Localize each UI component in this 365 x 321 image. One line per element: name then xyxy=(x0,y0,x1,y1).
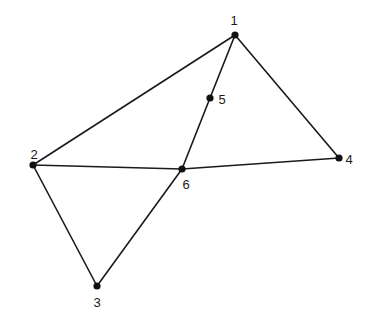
node-3 xyxy=(93,282,100,289)
edge-2-6 xyxy=(33,165,182,169)
node-label-1: 1 xyxy=(230,13,237,28)
node-4 xyxy=(335,154,342,161)
node-label-5: 5 xyxy=(218,92,225,107)
node-2 xyxy=(29,161,36,168)
node-label-4: 4 xyxy=(345,152,352,167)
edge-5-6 xyxy=(182,98,210,169)
edge-6-4 xyxy=(182,158,339,169)
edges xyxy=(33,35,339,286)
edge-1-4 xyxy=(235,35,339,158)
graph-diagram: 123456 xyxy=(0,0,365,321)
edge-1-2 xyxy=(33,35,235,165)
edge-2-3 xyxy=(33,165,97,286)
node-label-6: 6 xyxy=(182,177,189,192)
edge-1-5 xyxy=(210,35,235,98)
node-5 xyxy=(206,94,213,101)
node-labels: 123456 xyxy=(30,13,352,310)
node-6 xyxy=(178,165,185,172)
node-label-2: 2 xyxy=(30,147,37,162)
node-1 xyxy=(231,31,238,38)
edge-3-6 xyxy=(97,169,182,286)
node-label-3: 3 xyxy=(93,295,100,310)
